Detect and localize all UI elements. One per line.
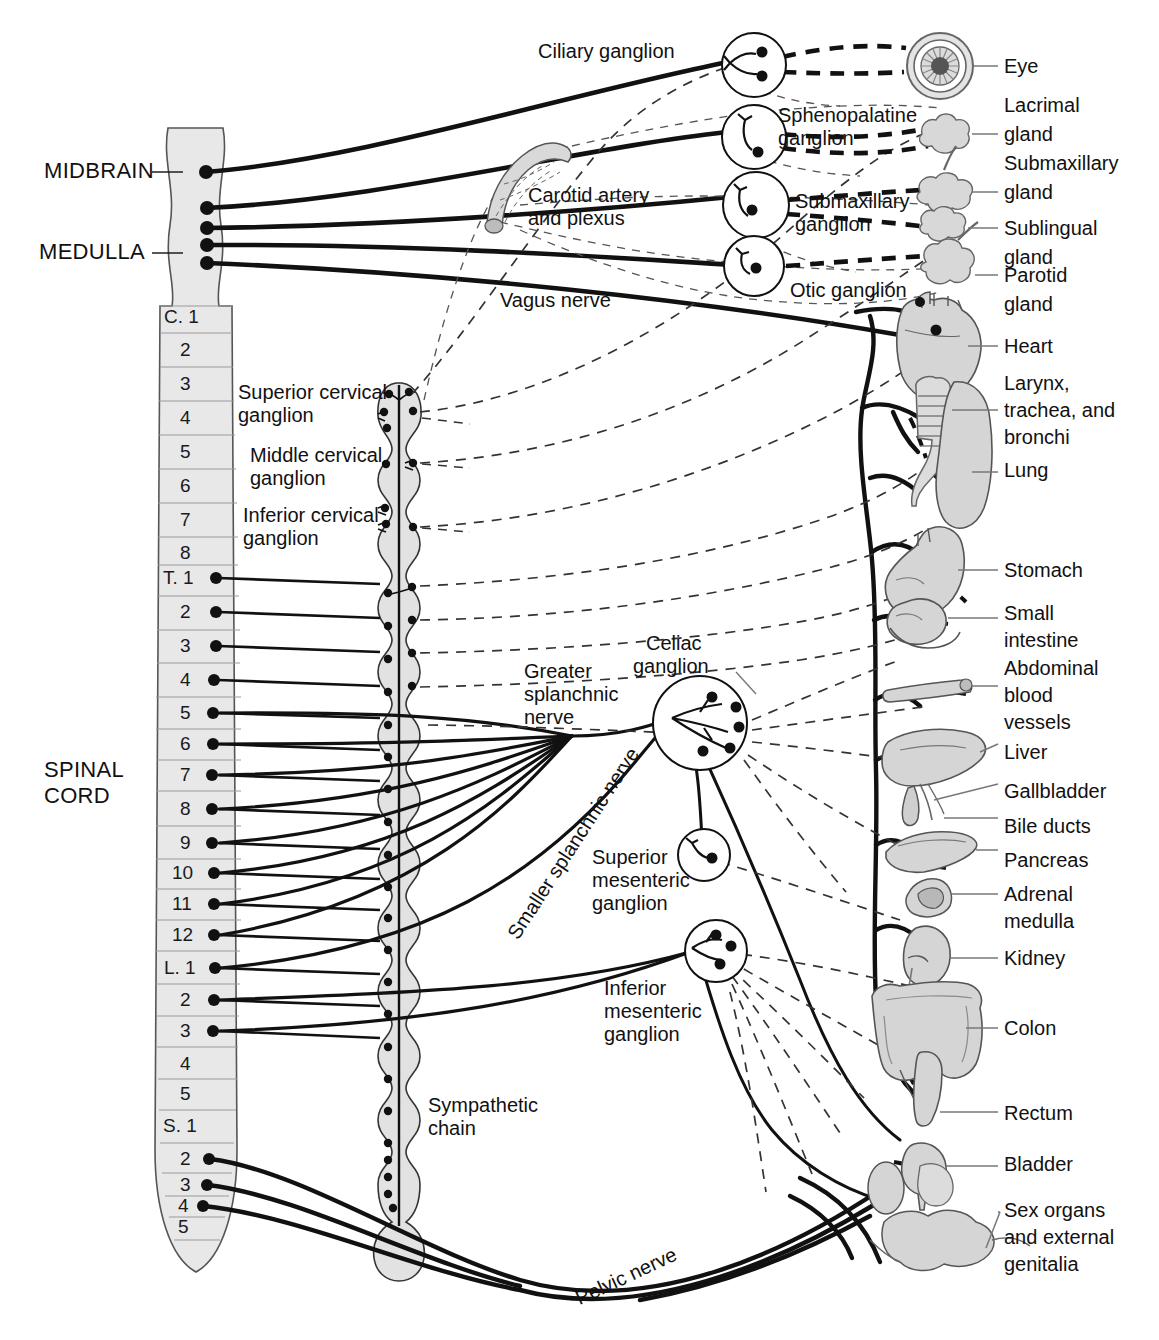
adrenal-medulla-illustration: [906, 879, 952, 917]
superior-mesenteric-ganglion-label-line1: Superior: [592, 846, 668, 869]
smaller-splanchnic-nerve-path: [220, 718, 672, 968]
segment-label-t12: 12: [172, 925, 193, 945]
spinal-cord-label-line2: CORD: [44, 783, 110, 809]
organ-label-abdominal-vessels-line1: Abdominal: [1004, 657, 1099, 680]
midbrain-label: MIDBRAIN: [44, 158, 154, 184]
submaxillary-ganglion-label-line2: ganglion: [795, 213, 871, 236]
organ-label-small-intestine-line2: intestine: [1004, 629, 1079, 652]
organ-label-abdominal-vessels-line2: blood: [1004, 684, 1053, 707]
organ-label-bladder: Bladder: [1004, 1153, 1073, 1176]
organ-label-heart: Heart: [1004, 335, 1053, 358]
rectum-illustration: [914, 1052, 942, 1126]
otic-ganglion-label: Otic ganglion: [790, 279, 907, 302]
segment-label-s4: 4: [178, 1196, 189, 1216]
cord-outline: [155, 128, 237, 1272]
otic-ganglion-node: [724, 236, 784, 296]
cervical-ganglion-leaders: [422, 418, 470, 532]
organ-label-submaxillary-gland-line1: Submaxillary: [1004, 152, 1118, 175]
spinal-cord-label-line1: SPINAL: [44, 757, 124, 783]
greater-splanchnic-label-line3: nerve: [524, 706, 574, 729]
segment-label-l2: 2: [180, 990, 191, 1010]
carotid-plexus-fibers: [424, 80, 940, 400]
submaxillary-ganglion-label-line1: Submaxillary: [795, 190, 909, 213]
celiac-ganglion-label-line2: ganglion: [633, 655, 709, 678]
segment-label-t9: 9: [180, 833, 191, 853]
organ-label-sublingual-gland-line1: Sublingual: [1004, 217, 1097, 240]
organ-label-parotid-gland-line2: gland: [1004, 293, 1053, 316]
organ-label-sex-organs-line3: genitalia: [1004, 1253, 1079, 1276]
vagus-nerve-label: Vagus nerve: [500, 289, 611, 312]
organ-label-eye: Eye: [1004, 55, 1038, 78]
inferior-cervical-ganglion-label-line1: Inferior cervical: [243, 504, 379, 527]
superior-cervical-ganglion-label-line1: Superior cervical: [238, 381, 387, 404]
ganglion-circles: [653, 33, 789, 982]
sphenopalatine-ganglion-node: [722, 105, 786, 169]
organ-label-stomach: Stomach: [1004, 559, 1083, 582]
segment-label-c4: 4: [180, 408, 191, 428]
inferior-mesenteric-ganglion-label-line1: Inferior: [604, 977, 666, 1000]
segment-label-s3: 3: [180, 1175, 191, 1195]
greater-splanchnic-label-line1: Greater: [524, 660, 592, 683]
segment-label-s2: 2: [180, 1149, 191, 1169]
segment-label-t5: 5: [180, 703, 191, 723]
organ-label-liver: Liver: [1004, 741, 1047, 764]
segment-label-t3: 3: [180, 636, 191, 656]
segment-label-t4: 4: [180, 670, 191, 690]
segment-label-l1: L. 1: [164, 958, 196, 978]
organ-label-lacrimal-gland-line2: gland: [1004, 123, 1053, 146]
organ-label-parotid-gland-line1: Parotid: [1004, 264, 1067, 287]
carotid-artery-label-line1: Carotid artery: [528, 184, 649, 207]
segment-label-c3: 3: [180, 374, 191, 394]
segment-label-s5: 5: [178, 1217, 189, 1237]
celiac-ganglion-label-line1: Celiac: [646, 632, 702, 655]
organ-label-lacrimal-gland-line1: Lacrimal: [1004, 94, 1080, 117]
small-intestine-illustration: [887, 599, 960, 648]
organ-label-rectum: Rectum: [1004, 1102, 1073, 1125]
inferior-mesenteric-ganglion-node: [685, 920, 747, 982]
segment-label-t1: T. 1: [163, 568, 194, 588]
organ-label-bile-ducts: Bile ducts: [1004, 815, 1091, 838]
inferior-mesenteric-ganglion-label-line3: ganglion: [604, 1023, 680, 1046]
pancreas-illustration: [886, 832, 977, 873]
organ-label-adrenal-line1: Adrenal: [1004, 883, 1073, 906]
segment-label-c7: 7: [180, 510, 191, 530]
submaxillary-ganglion-node: [723, 172, 789, 238]
middle-cervical-ganglion-label-line2: ganglion: [250, 467, 326, 490]
greater-splanchnic-label-line2: splanchnic: [524, 683, 619, 706]
organ-label-sex-organs-line2: and external: [1004, 1226, 1114, 1249]
organ-label-larynx-line3: bronchi: [1004, 426, 1070, 449]
figure-canvas: MIDBRAIN MEDULLA SPINAL CORD C. 1 2 3 4 …: [0, 0, 1159, 1340]
superior-cervical-ganglion-label-line2: ganglion: [238, 404, 314, 427]
organ-label-small-intestine-line1: Small: [1004, 602, 1054, 625]
segment-label-c6: 6: [180, 476, 191, 496]
carotid-artery-label-line2: and plexus: [528, 207, 625, 230]
submaxillary-gland-illustration: [917, 146, 972, 212]
inferior-cervical-ganglion-label-line2: ganglion: [243, 527, 319, 550]
segment-label-l3: 3: [180, 1021, 191, 1041]
segment-label-s1: S. 1: [163, 1116, 197, 1136]
celiac-ganglion-node: [653, 676, 747, 770]
organ-label-gallbladder: Gallbladder: [1004, 780, 1106, 803]
abdominal-blood-vessels-illustration: [883, 679, 972, 702]
segment-label-l4: 4: [180, 1054, 191, 1074]
spinal-cord-column: [152, 128, 241, 1272]
organ-label-larynx-line1: Larynx,: [1004, 372, 1070, 395]
organ-label-submaxillary-gland-line2: gland: [1004, 181, 1053, 204]
segment-label-c1: C. 1: [164, 307, 199, 327]
segment-label-t2: 2: [180, 602, 191, 622]
pelvic-nerve-fibers: [204, 1159, 880, 1300]
liver-illustration: [882, 729, 985, 786]
sympathetic-chain-label-line2: chain: [428, 1117, 476, 1140]
superior-mesenteric-ganglion-label-line3: ganglion: [592, 892, 668, 915]
segment-label-t11: 11: [172, 894, 192, 914]
ciliary-ganglion-label: Ciliary ganglion: [538, 40, 675, 63]
organ-label-lung: Lung: [1004, 459, 1049, 482]
segment-label-l5: 5: [180, 1084, 191, 1104]
segment-label-t7: 7: [180, 765, 191, 785]
ganglion-label-leaders: [736, 672, 756, 694]
organ-label-colon: Colon: [1004, 1017, 1056, 1040]
fiber-to-otic-ganglion: [206, 245, 734, 265]
superior-mesenteric-ganglion-label-line2: mesenteric: [592, 869, 690, 892]
organ-label-abdominal-vessels-line3: vessels: [1004, 711, 1071, 734]
organ-label-larynx-line2: trachea, and: [1004, 399, 1115, 422]
